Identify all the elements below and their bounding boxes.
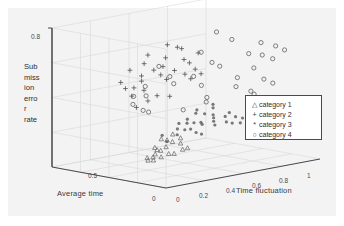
y-axis-label: Sub miss ion erro r rate — [24, 62, 50, 125]
legend-label: category 2 — [259, 110, 292, 119]
x-axis-tick-0_8: 0.8 — [279, 177, 288, 184]
legend-label: category 1 — [259, 100, 292, 109]
origin-tick-left: 0 — [152, 195, 156, 202]
y-axis-label-line: r — [24, 104, 50, 115]
circle-marker-icon: ○ — [250, 130, 259, 139]
y-axis-label-line: Sub — [24, 62, 50, 73]
z-axis-tick-0_5: 0.5 — [88, 172, 97, 179]
legend-label: category 3 — [259, 120, 292, 129]
legend-entry-category-4: ○ category 4 — [250, 129, 321, 139]
y-axis-tick-0_8: 0.8 — [31, 33, 40, 40]
legend: △ category 1 + category 2 * category 3 ○… — [245, 95, 322, 140]
legend-entry-category-3: * category 3 — [250, 119, 321, 129]
triangle-marker-icon: △ — [250, 100, 259, 109]
legend-entry-category-2: + category 2 — [250, 109, 321, 119]
z-axis-label: Average time — [57, 189, 103, 198]
x-axis-tick-1: 1 — [307, 172, 311, 179]
legend-entry-category-1: △ category 1 — [250, 99, 321, 109]
asterisk-marker-icon: * — [250, 120, 259, 129]
x-axis-tick-0_4: 0.4 — [226, 187, 235, 194]
y-axis-label-line: rate — [24, 115, 50, 126]
y-axis-label-line: miss — [24, 73, 50, 84]
y-axis-label-line: erro — [24, 94, 50, 105]
plus-marker-icon: + — [250, 110, 259, 119]
y-axis-label-line: ion — [24, 83, 50, 94]
figure: Sub miss ion erro r rate 0.8 0.5 Average… — [0, 0, 344, 226]
x-axis-tick-0_2: 0.2 — [199, 192, 208, 199]
x-axis-label: Time fluctuation — [236, 186, 292, 195]
legend-label: category 4 — [259, 130, 292, 139]
origin-tick-right: 0 — [176, 196, 180, 203]
